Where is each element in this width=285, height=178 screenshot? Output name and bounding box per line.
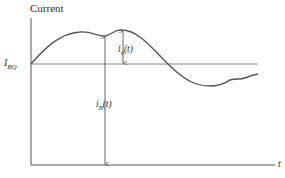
x-axis-label: t [278,159,281,169]
waveform-diagram [0,0,285,178]
y-axis-label: Current [30,3,64,14]
dc-level-label: IBQ [4,58,17,71]
current-waveform [31,30,258,86]
ac-component-label: ib(t) [118,45,133,56]
total-current-label: iB(t) [96,100,112,111]
